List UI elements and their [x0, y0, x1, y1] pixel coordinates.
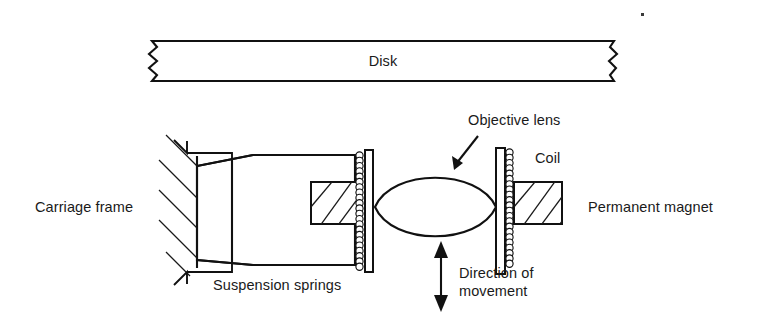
direction-of-movement-arrow — [434, 241, 448, 312]
direction-of-movement-label-line2: movement — [459, 283, 528, 299]
suspension-springs-label: Suspension springs — [213, 277, 341, 293]
diagram-canvas: Disk — [0, 0, 770, 321]
coil-right-beads — [506, 149, 513, 268]
objective-lens-pointer-arrow — [452, 136, 478, 170]
coil-left-bobbin — [365, 150, 373, 272]
carriage-frame-label: Carriage frame — [35, 199, 133, 215]
permanent-magnet-left — [311, 182, 359, 224]
coil-label: Coil — [535, 150, 560, 166]
optical-head-diagram: Disk — [0, 0, 770, 321]
coil-left-group — [356, 150, 373, 272]
frame-hatching — [159, 135, 197, 276]
direction-of-movement-label-line1: Direction of — [459, 265, 534, 281]
permanent-magnet-right-group — [508, 176, 585, 234]
carriage-taper-top — [197, 155, 253, 166]
carriage-taper-bottom — [197, 260, 253, 265]
scan-artifact-dot — [641, 13, 644, 16]
carriage-frame-group — [159, 135, 197, 276]
permanent-magnet-right — [514, 182, 562, 224]
coil-right-bobbin — [496, 148, 505, 274]
coil-right-group — [496, 148, 513, 274]
objective-lens-group — [375, 178, 496, 237]
objective-lens-shape — [375, 178, 496, 237]
objective-lens-label: Objective lens — [468, 112, 560, 128]
permanent-magnet-label: Permanent magnet — [588, 199, 713, 215]
coil-left-beads — [356, 152, 363, 271]
disk-label: Disk — [369, 53, 398, 69]
